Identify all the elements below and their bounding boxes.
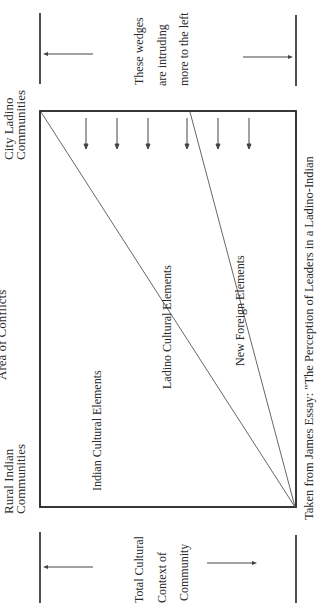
top-note-line-1: These wedges bbox=[133, 17, 146, 85]
bottom-note-line-2: Context of bbox=[156, 552, 169, 603]
foreign-elements-label: New Foreign Elements bbox=[234, 255, 247, 366]
indian-elements-label: Indian Cultural Elements bbox=[91, 370, 104, 491]
wedge-diagram bbox=[0, 0, 317, 603]
top-note-line-3: more to the left bbox=[178, 12, 191, 86]
bottom-note-line-1: Total Cultural bbox=[133, 536, 146, 603]
intrusion-arrows bbox=[84, 118, 251, 149]
city-ladino-label: City Ladino Communities bbox=[3, 90, 26, 160]
rural-indian-label: Rural Indian Communities bbox=[3, 444, 26, 514]
area-of-conflicts-label: Area of Conflicts bbox=[0, 290, 8, 380]
ladino-elements-label: Ladino Cultural Elements bbox=[161, 265, 174, 389]
source-caption: Taken from James Essay: "The Perception … bbox=[303, 156, 316, 520]
bottom-note-line-3: Community bbox=[178, 544, 191, 601]
top-note-line-2: are intruding bbox=[156, 24, 169, 86]
